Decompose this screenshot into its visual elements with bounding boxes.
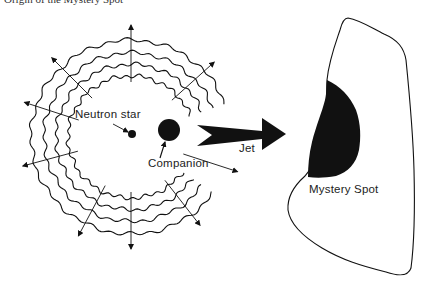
companion-disc [158,119,180,141]
diagram-canvas [0,0,424,286]
diagram: Origin of the Mystery Spot Neutron star … [0,0,424,286]
radial-arrow [78,186,105,236]
mystery-spot-dark-region [308,80,360,178]
neutron-star-label: Neutron star [75,108,141,120]
figure-caption: Origin of the Mystery Spot [4,0,123,5]
neutron-star-pointer [113,124,128,132]
mystery-spot-label: Mystery Spot [309,183,379,195]
companion-pointer [160,142,165,158]
shock-wave-rings [30,38,224,235]
radial-arrow [23,151,78,166]
jet-label: Jet [239,142,255,154]
shock-ring [30,38,224,235]
shock-ring [55,62,201,211]
neutron-star-dot [128,130,136,138]
radial-arrow [25,102,79,120]
companion-label: Companion [148,157,209,169]
